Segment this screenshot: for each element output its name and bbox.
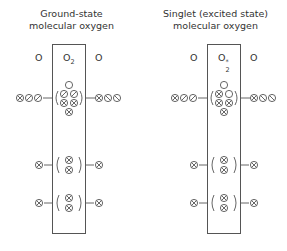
right-atom-outer-electrons — [95, 94, 120, 101]
right-atom-outer-electrons — [250, 94, 275, 101]
molecule-outer-orbitals — [60, 81, 77, 115]
ground-state-orbital-diagram — [0, 0, 143, 251]
singlet-state-panel: Singlet (excited state) molecular oxygen… — [144, 0, 287, 251]
left-atom-inner-electron — [35, 161, 42, 168]
left-bracket — [56, 91, 58, 105]
right-bracket — [80, 91, 82, 105]
right-atom-inner-electron — [95, 161, 102, 168]
left-atom-outer-electrons — [16, 94, 41, 101]
molecule-outer-orbitals — [215, 81, 232, 115]
left-atom-outer-electrons — [171, 94, 196, 101]
singlet-orbital-diagram — [144, 0, 287, 251]
ground-state-panel: Ground-state molecular oxygen O O2 O — [0, 0, 143, 251]
